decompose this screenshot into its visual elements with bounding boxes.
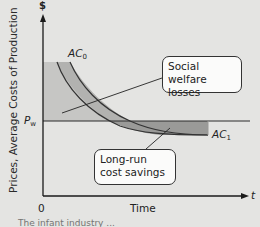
pw-label: Pw: [24, 114, 36, 128]
welfare-losses-callout: Social welfare losses: [162, 56, 242, 93]
y-axis-arrow-icon: [40, 14, 46, 22]
x-axis-arrow-icon: [241, 193, 249, 199]
ac1-label: AC1: [212, 128, 231, 142]
figure-caption: The infant industry ...: [18, 218, 115, 227]
x-axis-label: Time: [130, 202, 156, 214]
origin-label: 0: [38, 202, 45, 214]
y-axis-label: Prices, Average Costs of Production: [7, 23, 23, 193]
x-axis-symbol: t: [251, 189, 255, 201]
cost-savings-callout: Long-run cost savings: [94, 149, 176, 185]
y-axis-symbol: $: [39, 0, 46, 11]
ac0-label: AC0: [68, 47, 87, 61]
diagram-canvas: [0, 0, 260, 227]
